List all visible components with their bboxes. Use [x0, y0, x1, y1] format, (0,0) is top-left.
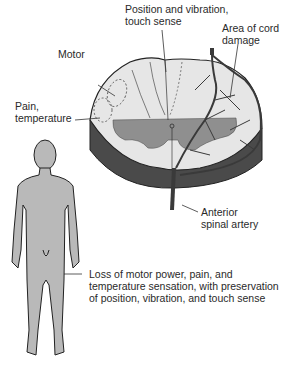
spinal-cord-cross-section	[90, 58, 262, 188]
label-pain-temperature: Pain, temperature	[15, 100, 72, 124]
label-position-vibration: Position and vibration, touch sense	[125, 3, 228, 27]
human-figure	[12, 140, 79, 355]
label-motor: Motor	[58, 48, 85, 60]
label-area-of-cord-damage: Area of cord damage	[222, 22, 279, 46]
label-loss-of-function: Loss of motor power, pain, and temperatu…	[89, 268, 279, 304]
label-anterior-spinal-artery: Anterior spinal artery	[201, 206, 258, 230]
diagram-artwork	[0, 0, 295, 372]
